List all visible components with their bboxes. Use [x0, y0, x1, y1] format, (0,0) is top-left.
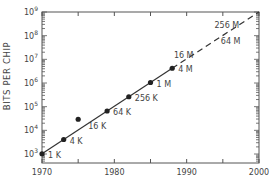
- x-tick-label: 1980: [104, 168, 124, 177]
- y-tick-label: 108: [24, 29, 38, 41]
- y-tick-label: 103: [24, 147, 38, 159]
- data-point: [61, 137, 66, 142]
- data-point: [148, 80, 153, 85]
- projection-label: 256 M: [215, 21, 240, 30]
- y-axis-label: BITS PER CHIP: [2, 36, 14, 116]
- x-tick-label: 1990: [176, 168, 196, 177]
- x-tick-label: 2000: [249, 168, 269, 177]
- y-tick-label: 104: [24, 123, 38, 135]
- data-point-label: 64 K: [113, 108, 132, 117]
- plot-area: 19701980199020001031041051061071081091 K…: [0, 0, 280, 188]
- projection-label: 64 M: [221, 37, 241, 46]
- data-point: [170, 66, 175, 71]
- data-point-label: 256 K: [135, 94, 159, 103]
- data-point-label: 1 M: [157, 80, 172, 89]
- data-point: [39, 151, 44, 156]
- chart: BITS PER CHIP 19701980199020001031041051…: [0, 0, 280, 188]
- data-point: [105, 108, 110, 113]
- projection-label: 16 M: [174, 51, 194, 60]
- y-tick-label: 106: [24, 76, 38, 88]
- data-point-label: 16 K: [88, 122, 107, 131]
- y-tick-label: 105: [24, 100, 38, 112]
- data-point-label: 4 K: [70, 137, 84, 146]
- x-tick-label: 1970: [32, 168, 52, 177]
- data-point: [76, 117, 81, 122]
- data-point-label: 1 K: [48, 151, 62, 160]
- data-point: [126, 94, 131, 99]
- data-point-label: 4 M: [178, 65, 193, 74]
- y-tick-label: 109: [24, 5, 38, 17]
- y-tick-label: 107: [24, 52, 38, 64]
